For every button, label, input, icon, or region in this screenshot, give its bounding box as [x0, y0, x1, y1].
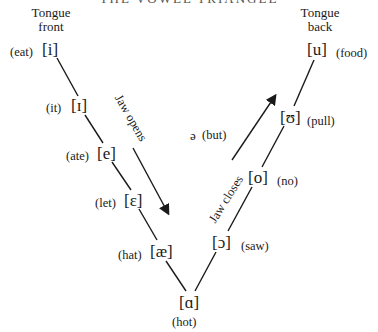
word-hot: (hot): [172, 315, 196, 330]
line-a-to-open-o: [195, 252, 216, 291]
tongue-back-heading: Tongue back: [297, 6, 343, 34]
symbol-i: [i]: [42, 40, 58, 60]
word-ate: (ate): [66, 149, 89, 164]
symbol-open-e: [ɛ]: [124, 191, 142, 211]
symbol-ae: [æ]: [150, 242, 173, 262]
vowel-triangle-diagram: THE VOWEL TRIANGLE Tongue front Tongue b…: [0, 0, 378, 332]
symbol-open-a: [ɑ]: [179, 293, 199, 313]
word-saw: (saw): [241, 239, 269, 254]
word-food: (food): [336, 46, 367, 61]
line-eps-to-ae: [139, 209, 157, 240]
symbol-schwa: ə: [190, 128, 196, 144]
tongue-front-heading: Tongue front: [28, 6, 74, 34]
line-i-to-I: [57, 58, 78, 96]
symbol-u: [u]: [307, 40, 327, 60]
symbol-near-close-i: [ɪ]: [71, 96, 87, 116]
word-it: (it): [46, 101, 61, 116]
word-eat: (eat): [10, 45, 33, 60]
word-but: (but): [202, 128, 226, 143]
word-pull: (pull): [307, 114, 335, 129]
symbol-near-close-u: [ʊ]: [280, 108, 301, 128]
symbol-o: [o]: [248, 168, 268, 188]
symbol-open-o: [ɔ]: [212, 233, 231, 253]
line-U-to-u: [294, 60, 314, 106]
line-e-to-eps: [112, 162, 131, 190]
line-o-to-U: [262, 126, 284, 167]
line-ae-to-a: [166, 261, 186, 291]
word-no: (no): [277, 174, 298, 189]
word-let: (let): [95, 196, 116, 211]
line-I-to-e: [85, 115, 103, 143]
symbol-e: [e]: [97, 144, 116, 164]
jaw-closes-arrow: [232, 96, 275, 160]
word-hat: (hat): [118, 248, 142, 263]
